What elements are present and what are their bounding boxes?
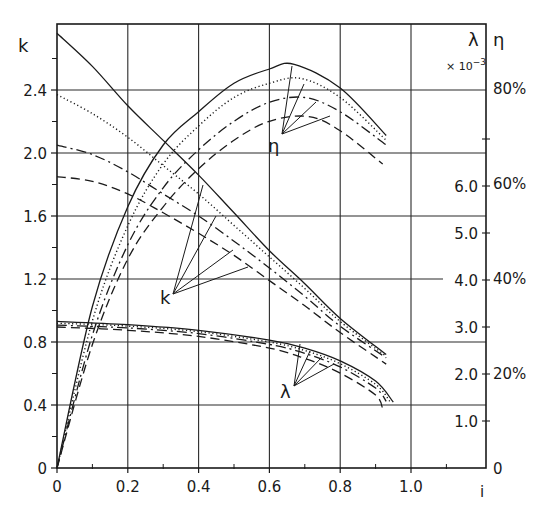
x-tick-label: 0: [52, 478, 62, 496]
axis-ticks: 00.40.81.21.62.02.400.20.40.60.81.01.02.…: [23, 59, 526, 497]
curve-k-dash-dot: [57, 145, 386, 358]
eta-tick-label: 60%: [493, 175, 526, 193]
lambda-tick-label: 2.0: [454, 366, 478, 384]
leader-line-lambda: [294, 357, 322, 386]
left-tick-label: 1.6: [23, 208, 47, 226]
x-tick-label: 0.2: [116, 478, 140, 496]
left-tick-label: 2.4: [23, 82, 47, 100]
x-tick-label: 0.4: [187, 478, 211, 496]
lambda-axis-title: λ: [468, 29, 479, 50]
lambda-tick-label: 3.0: [454, 319, 478, 337]
curve-label-eta: η: [268, 135, 279, 156]
lambda-multiplier: × 10−3: [446, 57, 486, 73]
left-tick-label: 0.8: [23, 334, 47, 352]
eta-tick-label: 20%: [493, 365, 526, 383]
plot-frame: [57, 24, 486, 468]
left-tick-label: 1.2: [23, 271, 47, 289]
curve-eta-dotted: [57, 78, 386, 468]
x-axis-title: i: [480, 483, 484, 501]
leader-line-k: [173, 250, 233, 294]
left-tick-label: 0: [37, 460, 47, 478]
plot-border: [57, 24, 486, 468]
left-axis-title: k: [18, 35, 29, 56]
x-tick-label: 1.0: [399, 478, 423, 496]
curve-label-k: k: [160, 287, 171, 308]
eta-tick-label: 80%: [493, 80, 526, 98]
x-tick-label: 0.6: [257, 478, 281, 496]
left-tick-label: 2.0: [23, 145, 47, 163]
leader-line-k: [173, 216, 216, 294]
curve-lambda-solid: [57, 321, 393, 402]
curve-k-dotted: [57, 95, 386, 357]
curve-eta-solid: [57, 63, 386, 468]
eta-axis-title: η: [493, 29, 504, 50]
eta-tick-label: 40%: [493, 270, 526, 288]
leader-line-eta: [282, 102, 316, 134]
chart-svg: 00.40.81.21.62.02.400.20.40.60.81.01.02.…: [0, 0, 552, 518]
lambda-tick-label: 4.0: [454, 272, 478, 290]
curve-lambda-dash-dot: [57, 325, 386, 401]
lambda-tick-label: 1.0: [454, 413, 478, 431]
curve-label-lambda: λ: [280, 381, 291, 402]
curve-lambda-dashed: [57, 327, 383, 409]
grid-lines: [57, 24, 486, 468]
x-tick-label: 0.8: [328, 478, 352, 496]
leader-line-k: [173, 267, 248, 294]
left-tick-label: 0.4: [23, 397, 47, 415]
lambda-tick-label: 5.0: [454, 225, 478, 243]
eta-tick-label: 0: [493, 460, 503, 478]
curve-eta-dashed: [57, 116, 383, 468]
leader-line-lambda: [294, 364, 334, 386]
lambda-tick-label: 6.0: [454, 178, 478, 196]
chart-container: 00.40.81.21.62.02.400.20.40.60.81.01.02.…: [0, 0, 552, 518]
series-group: [57, 33, 393, 468]
